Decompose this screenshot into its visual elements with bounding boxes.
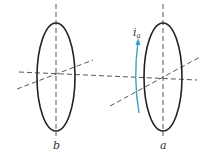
loop-a-oblique-axis	[110, 57, 200, 106]
current-arrow	[136, 42, 139, 113]
loop-b-label: b	[53, 139, 60, 152]
axes	[17, 4, 200, 136]
current-label: ia	[133, 26, 141, 40]
loop-a-label: a	[160, 139, 167, 152]
loop-b-oblique-axis	[17, 60, 93, 89]
coil-diagram: ia b a	[0, 0, 212, 158]
